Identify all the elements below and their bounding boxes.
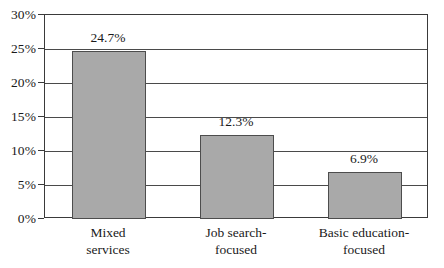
x-axis-label-line: Mixed [90, 225, 125, 240]
x-axis-label-line: services [38, 241, 178, 258]
y-axis-tick-label: 0% [0, 212, 36, 226]
bar[interactable] [72, 51, 146, 219]
y-axis-tick-label: 10% [0, 144, 36, 158]
bar[interactable] [328, 172, 402, 219]
y-axis-tick-label: 5% [0, 178, 36, 192]
x-axis-label-line: focused [294, 241, 434, 258]
x-axis-label-line: Basic education- [319, 225, 409, 240]
x-axis-category-label: Mixedservices [38, 224, 178, 258]
y-axis-tick-label: 15% [0, 110, 36, 124]
x-axis-label-line: Job search- [205, 225, 266, 240]
bar-chart: 0%5%10%15%20%25%30% 24.7%12.3%6.9% Mixed… [0, 0, 444, 268]
x-axis-label-line: focused [166, 241, 306, 258]
bar[interactable] [200, 135, 274, 219]
y-axis-tick-label: 25% [0, 42, 36, 56]
x-axis-category-label: Job search-focused [166, 224, 306, 258]
y-axis-tick-label: 20% [0, 76, 36, 90]
gridline [45, 49, 427, 50]
x-axis-category-label: Basic education-focused [294, 224, 434, 258]
bar-value-label: 12.3% [186, 115, 286, 129]
bar-value-label: 6.9% [314, 152, 414, 166]
bar-value-label: 24.7% [58, 31, 158, 45]
y-axis-tick-label: 30% [0, 8, 36, 22]
